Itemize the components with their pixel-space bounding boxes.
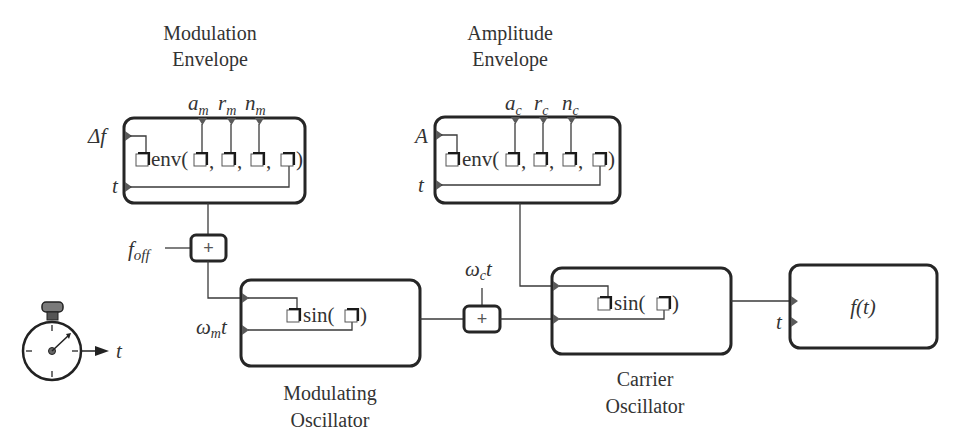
param-ac: ac [505,91,523,118]
param-nc: nc [562,91,580,118]
input-t: t [418,173,425,197]
svg-text:): ) [360,303,367,327]
input-t: t [112,174,119,198]
svg-text:,: , [578,149,583,173]
param-nm: nm [245,91,266,118]
svg-text:): ) [672,291,679,315]
input-omega-m-t: ωmt [196,315,228,341]
arrow-right-icon [95,346,109,356]
modulation-envelope-block: Modulation Envelope am rm nm Δf t env( ,… [87,22,305,203]
carrier-oscillator-title-1: Carrier [617,368,674,390]
input-f-off: foff [128,237,152,263]
param-rc: rc [534,91,549,118]
svg-text:,: , [521,149,526,173]
stopwatch-icon: t [23,302,123,380]
output-block: t f(t) [731,265,937,348]
fm-synthesis-diagram: Modulation Envelope am rm nm Δf t env( ,… [0,0,960,447]
input-omega-c-t: ωct [465,257,493,283]
clock-output-t: t [116,339,123,363]
svg-text:,: , [549,149,554,173]
svg-text:): ) [296,147,303,171]
param-rm: rm [218,91,236,118]
modulating-oscillator-title-1: Modulating [283,382,376,405]
env-function-label: env( [462,147,499,171]
svg-text:,: , [266,149,271,173]
carrier-adder-block: ωct + [420,257,553,332]
amplitude-envelope-block: Amplitude Envelope ac rc nc A t env( , ,… [413,22,620,203]
offset-adder-block: foff + [128,203,242,298]
plus-icon: + [477,309,488,329]
input-delta-f: Δf [87,124,109,148]
svg-text:,: , [209,149,214,173]
input-t: t [776,310,783,334]
input-amplitude: A [413,124,428,148]
amplitude-envelope-title-1: Amplitude [467,22,553,45]
carrier-oscillator-title-2: Oscillator [606,395,685,417]
plus-icon: + [203,238,214,258]
sin-function-label: sin( [614,291,646,315]
param-am: am [188,91,209,118]
output-function-label: f(t) [850,295,876,319]
modulation-envelope-title-1: Modulation [163,22,256,44]
modulating-oscillator-block: ωmt sin( ) Modulating Oscillator [196,280,420,431]
svg-text:,: , [237,149,242,173]
modulating-oscillator-title-2: Oscillator [291,409,370,431]
env-function-label: env( [151,147,188,171]
amplitude-envelope-title-2: Envelope [472,48,548,71]
modulation-envelope-title-2: Envelope [172,48,248,71]
sin-function-label: sin( [303,303,335,327]
svg-text:): ) [608,147,615,171]
carrier-oscillator-block: sin( ) Carrier Oscillator [520,203,731,417]
